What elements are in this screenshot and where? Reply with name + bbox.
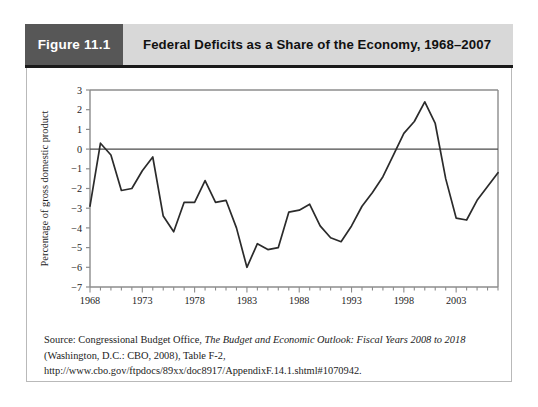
svg-text:Percentage of gross domestic p: Percentage of gross domestic product (39, 110, 50, 266)
y-tick-labels: 3210−1−2−3−4−5−6−7 (71, 85, 82, 293)
svg-text:−7: −7 (71, 282, 82, 293)
svg-text:−2: −2 (71, 183, 82, 194)
svg-text:1: 1 (77, 124, 82, 135)
svg-text:0: 0 (77, 144, 82, 155)
svg-text:−5: −5 (71, 242, 82, 253)
line-chart-svg: 3210−1−2−3−4−5−6−7 196819731978198319881… (26, 72, 512, 322)
x-tick-labels: 19681973197819831988199319982003 (80, 295, 467, 306)
source-note: Source: Congressional Budget Office, The… (44, 332, 496, 379)
svg-text:−1: −1 (71, 163, 82, 174)
axis-layer (86, 90, 498, 293)
figure-number-tag: Figure 11.1 (25, 24, 123, 65)
figure-root: Figure 11.1 Federal Deficits as a Share … (0, 0, 538, 407)
svg-text:2: 2 (77, 104, 82, 115)
figure-header: Figure 11.1 Federal Deficits as a Share … (25, 24, 513, 65)
svg-text:1968: 1968 (80, 295, 100, 306)
svg-text:−6: −6 (71, 262, 82, 273)
svg-text:1983: 1983 (237, 295, 257, 306)
svg-text:1988: 1988 (289, 295, 309, 306)
svg-text:−4: −4 (71, 223, 82, 234)
svg-text:1998: 1998 (394, 295, 414, 306)
y-axis-title: Percentage of gross domestic product (39, 110, 50, 266)
header-divider-rule (25, 65, 513, 68)
figure-title: Federal Deficits as a Share of the Econo… (123, 24, 513, 65)
chart-plot-area: 3210−1−2−3−4−5−6−7 196819731978198319881… (26, 72, 512, 322)
svg-text:2003: 2003 (446, 295, 466, 306)
svg-text:3: 3 (77, 85, 82, 96)
source-suffix: (Washington, D.C.: CBO, 2008), Table F-2… (44, 350, 362, 377)
source-title-italic: The Budget and Economic Outlook: Fiscal … (205, 334, 466, 345)
svg-text:1973: 1973 (132, 295, 152, 306)
svg-text:1993: 1993 (341, 295, 361, 306)
data-series-layer (90, 102, 498, 267)
svg-text:−3: −3 (71, 203, 82, 214)
source-prefix: Source: Congressional Budget Office, (44, 334, 205, 345)
svg-text:1978: 1978 (184, 295, 204, 306)
